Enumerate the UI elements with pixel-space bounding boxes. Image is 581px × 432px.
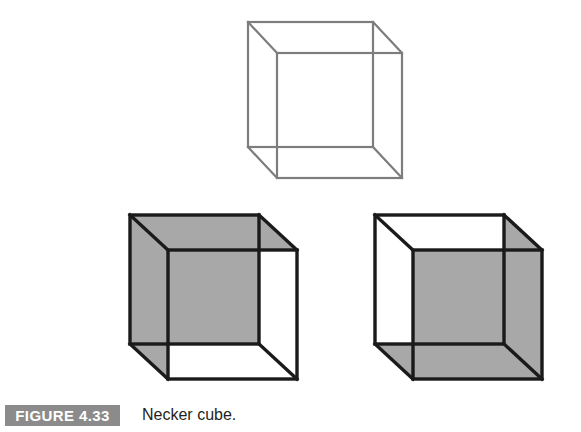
front-face-forward-cube bbox=[375, 215, 542, 379]
ambiguous-cube-edge-bl bbox=[248, 147, 277, 178]
figure-number-badge: FIGURE 4.33 bbox=[5, 405, 120, 426]
left-cube-edge-br bbox=[259, 344, 297, 379]
right-cube-edge-tl bbox=[375, 215, 413, 250]
figure-caption: FIGURE 4.33 Necker cube. bbox=[0, 398, 581, 432]
ambiguous-cube bbox=[248, 22, 402, 178]
ambiguous-cube-edge-tl bbox=[248, 22, 277, 53]
necker-cube-diagram bbox=[0, 0, 581, 395]
figure-container: FIGURE 4.33 Necker cube. bbox=[0, 0, 581, 432]
figure-caption-text: Necker cube. bbox=[142, 406, 236, 424]
back-face-forward-cube bbox=[130, 215, 297, 379]
ambiguous-cube-edge-br bbox=[373, 147, 402, 178]
cube-drawing-svg bbox=[0, 0, 581, 395]
ambiguous-cube-edge-tr bbox=[373, 22, 402, 53]
